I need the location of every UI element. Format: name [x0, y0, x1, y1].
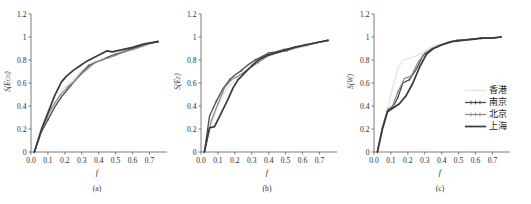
svg-text:0.6: 0.6 — [471, 156, 481, 165]
svg-text:0.2: 0.2 — [187, 125, 197, 134]
y-axis-label-c: S(W) — [346, 60, 355, 104]
svg-text:0.5: 0.5 — [281, 156, 291, 165]
y-axis-label-b-sub: E — [175, 76, 181, 79]
y-axis-label-b-tail: ) — [173, 73, 182, 75]
svg-text:0.6: 0.6 — [17, 79, 27, 88]
y-axis-label-c-main: S(W — [346, 77, 355, 89]
svg-text:0.4: 0.4 — [437, 156, 447, 165]
chart-panel-b: 00.20.40.60.811.20.00.10.20.30.40.50.60.… — [170, 0, 340, 204]
svg-text:0.4: 0.4 — [17, 102, 27, 111]
legend-item-label: 南京 — [487, 97, 507, 108]
svg-text:0.2: 0.2 — [360, 125, 370, 134]
svg-text:0.6: 0.6 — [360, 79, 370, 88]
figure-root: 00.20.40.60.811.20.00.10.20.30.40.50.60.… — [0, 0, 531, 204]
y-axis-label-a: S(ECO) — [3, 60, 12, 104]
svg-text:0.4: 0.4 — [94, 156, 104, 165]
y-axis-label-c-tail: ) — [346, 74, 355, 76]
x-axis-label-b: f — [257, 168, 277, 177]
panel-caption-b: (b) — [252, 184, 282, 193]
legend-item: 香港 — [464, 84, 528, 96]
svg-text:0.5: 0.5 — [111, 156, 121, 165]
y-axis-label-b-main: S(E — [173, 79, 182, 90]
svg-text:0.2: 0.2 — [60, 156, 70, 165]
svg-text:0.3: 0.3 — [247, 156, 257, 165]
legend-item-label: 北京 — [487, 109, 507, 120]
panel-caption-c: (c) — [425, 184, 455, 193]
chart-legend: 香港南京北京上海 — [464, 84, 528, 132]
legend-item: 北京 — [464, 108, 528, 120]
svg-text:0.7: 0.7 — [315, 156, 325, 165]
chart-panel-c: 00.20.40.60.811.20.00.10.20.30.40.50.60.… — [340, 0, 531, 204]
legend-line-swatch-icon — [464, 121, 487, 132]
svg-text:1: 1 — [366, 33, 370, 42]
x-axis-label-c: f — [430, 168, 450, 177]
svg-text:0.4: 0.4 — [264, 156, 274, 165]
svg-text:1.2: 1.2 — [187, 10, 197, 19]
plot-canvas-a: 00.20.40.60.811.20.00.10.20.30.40.50.60.… — [0, 0, 170, 204]
svg-text:0.3: 0.3 — [420, 156, 430, 165]
y-axis-label-a-main: S(E — [3, 81, 12, 92]
legend-item: 上海 — [464, 120, 528, 132]
svg-text:0.7: 0.7 — [488, 156, 498, 165]
svg-text:0.1: 0.1 — [43, 156, 53, 165]
svg-text:0.8: 0.8 — [360, 56, 370, 65]
y-axis-label-a-tail: ) — [3, 71, 12, 73]
y-axis-label-a-sub: CO — [5, 74, 11, 82]
svg-text:0.6: 0.6 — [187, 79, 197, 88]
svg-text:0.0: 0.0 — [369, 156, 379, 165]
legend-line-swatch-icon — [464, 109, 487, 120]
legend-line-swatch-icon — [464, 97, 487, 108]
svg-text:1: 1 — [23, 33, 27, 42]
plot-canvas-b: 00.20.40.60.811.20.00.10.20.30.40.50.60.… — [170, 0, 340, 204]
svg-text:1.2: 1.2 — [17, 10, 27, 19]
svg-text:0.0: 0.0 — [196, 156, 206, 165]
legend-item-label: 香港 — [487, 85, 507, 96]
chart-panel-a: 00.20.40.60.811.20.00.10.20.30.40.50.60.… — [0, 0, 170, 204]
panel-caption-a: (a) — [82, 184, 112, 193]
svg-text:1: 1 — [193, 33, 197, 42]
svg-text:0.7: 0.7 — [145, 156, 155, 165]
svg-text:0.4: 0.4 — [187, 102, 197, 111]
legend-line-swatch-icon — [464, 85, 487, 96]
svg-text:0.2: 0.2 — [17, 125, 27, 134]
svg-text:0.2: 0.2 — [403, 156, 413, 165]
svg-text:0.1: 0.1 — [213, 156, 223, 165]
svg-text:0.4: 0.4 — [360, 102, 370, 111]
svg-text:0.6: 0.6 — [298, 156, 308, 165]
svg-text:0.1: 0.1 — [386, 156, 396, 165]
svg-text:1.2: 1.2 — [360, 10, 370, 19]
svg-text:0.8: 0.8 — [187, 56, 197, 65]
svg-text:0.3: 0.3 — [77, 156, 87, 165]
legend-item-label: 上海 — [487, 121, 507, 132]
svg-text:0.5: 0.5 — [454, 156, 464, 165]
svg-text:0.8: 0.8 — [17, 56, 27, 65]
svg-text:0.0: 0.0 — [26, 156, 36, 165]
legend-item: 南京 — [464, 96, 528, 108]
svg-text:0.6: 0.6 — [128, 156, 138, 165]
y-axis-label-b: S(EE) — [173, 60, 182, 104]
x-axis-label-a: f — [87, 168, 107, 177]
svg-text:0.2: 0.2 — [230, 156, 240, 165]
